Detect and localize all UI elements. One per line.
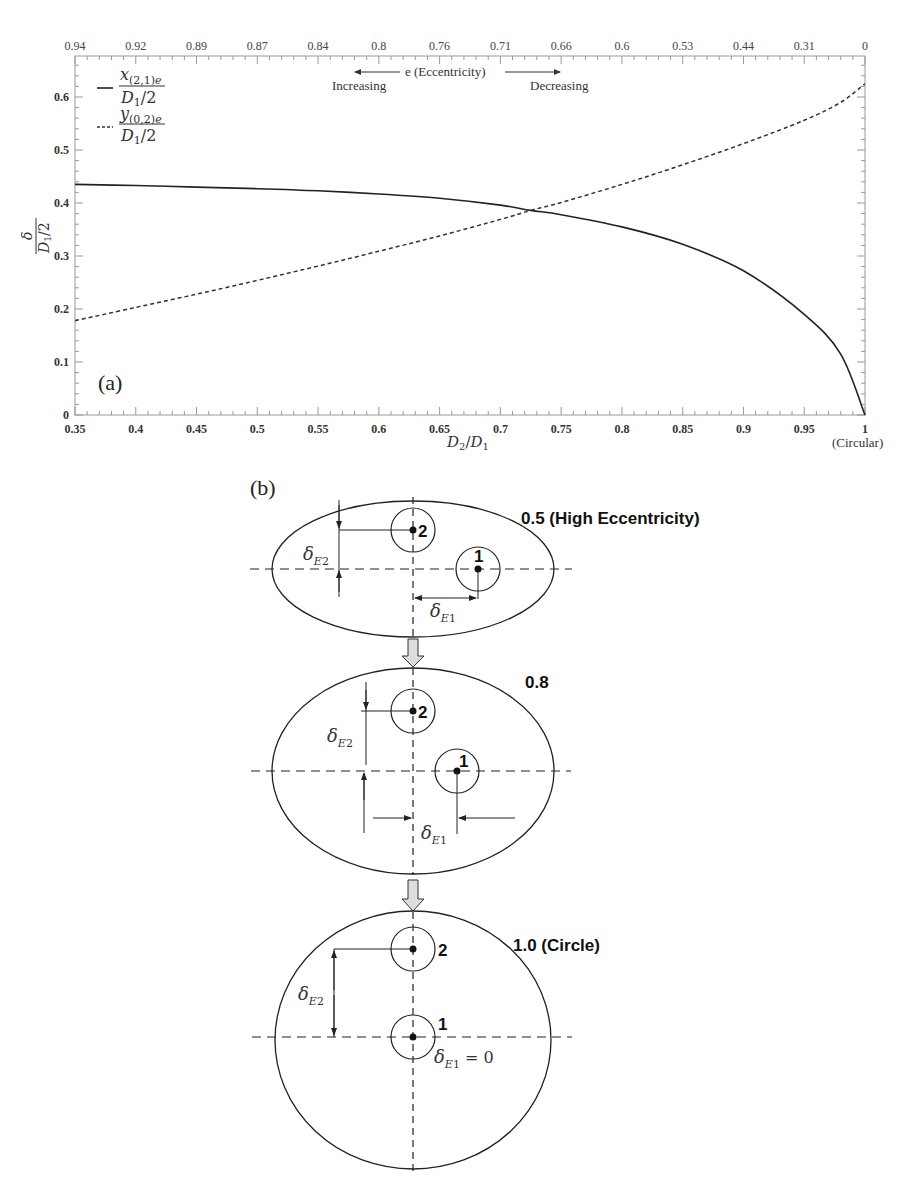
- top-tick-label: 0.8: [371, 39, 386, 53]
- hole-2-label: 2: [438, 941, 447, 960]
- hole-1-label: 1: [459, 752, 468, 771]
- top-tick-label: 0.92: [125, 39, 146, 53]
- transition-arrow-down-icon: [402, 639, 424, 667]
- stage-label: 0.8: [525, 673, 549, 692]
- hole-2-label: 2: [418, 703, 427, 722]
- top-tick-label: 0.87: [247, 39, 268, 53]
- x-tick-label: 0.4: [128, 422, 143, 436]
- legend: x(2,1)e D1/2 y(0,2)e D1/2: [97, 65, 165, 147]
- x-tick-label: 0.7: [493, 422, 508, 436]
- top-axis-labels: 0.940.920.890.870.840.80.760.710.660.60.…: [65, 39, 869, 53]
- x-tick-label: 0.55: [308, 422, 329, 436]
- panel-b-label: (b): [250, 475, 276, 500]
- y-axis-ticks: [75, 65, 865, 415]
- stage-label: 1.0 (Circle): [513, 936, 600, 955]
- y-tick-label: 0.5: [54, 143, 69, 157]
- x-tick-label: 1: [862, 422, 868, 436]
- x-tick-label: 0.75: [551, 422, 572, 436]
- x-tick-label: 0.35: [65, 422, 86, 436]
- hole-2-label: 2: [418, 522, 427, 541]
- diagram-panel-b: (b) 2 1 δE2 δE1 0.5 (High Eccentricity): [250, 475, 700, 1175]
- y-tick-label: 0.1: [54, 355, 69, 369]
- panel-a-label: (a): [98, 370, 122, 395]
- top-tick-label: 0: [862, 39, 868, 53]
- top-tick-label: 0.89: [186, 39, 207, 53]
- y-tick-label: 0.6: [54, 90, 69, 104]
- delta-e1-label: δE1 = 0: [434, 1046, 494, 1071]
- top-tick-label: 0.76: [429, 39, 450, 53]
- series-y02e-dashed-line: [75, 84, 865, 321]
- eccentricity-annotation: e (Eccentricity) Increasing Decreasing: [332, 64, 589, 93]
- x-tick-label: 0.95: [794, 422, 815, 436]
- transition-arrow-down-icon: [402, 880, 424, 911]
- top-tick-label: 0.6: [614, 39, 629, 53]
- y-tick-label: 0: [63, 408, 69, 422]
- top-tick-label: 0.71: [490, 39, 511, 53]
- x-axis-circular-note: (Circular): [832, 435, 883, 450]
- x-tick-label: 0.5: [250, 422, 265, 436]
- increasing-label: Increasing: [332, 78, 387, 93]
- legend-solid-numerator: x(2,1)e: [120, 65, 162, 87]
- delta-e2-label: δE2: [303, 543, 329, 568]
- y-tick-label: 0.2: [54, 302, 69, 316]
- y-tick-label: 0.3: [54, 249, 69, 263]
- hole-1-label: 1: [474, 547, 483, 566]
- top-tick-label: 0.66: [551, 39, 572, 53]
- top-tick-label: 0.53: [672, 39, 693, 53]
- legend-dashed-denominator: D1/2: [120, 126, 156, 147]
- delta-e2-label: δE2: [298, 983, 324, 1008]
- top-axis-ticks: [75, 56, 865, 64]
- x-tick-label: 0.6: [371, 422, 386, 436]
- top-tick-label: 0.31: [794, 39, 815, 53]
- plot-frame: [75, 56, 865, 415]
- stage-1-0-circle: 2 1 δE2 δE1 = 0 1.0 (Circle): [252, 911, 600, 1175]
- stage-0-8-ellipse: 2 1 δE2 δE1 0.8: [251, 668, 571, 875]
- x-tick-label: 0.8: [614, 422, 629, 436]
- hole-1-center: [410, 1034, 417, 1041]
- figure-canvas: 0.940.920.890.870.840.80.760.710.660.60.…: [0, 0, 906, 1188]
- x-tick-label: 0.45: [186, 422, 207, 436]
- top-tick-label: 0.44: [733, 39, 754, 53]
- y-tick-label: 0.4: [54, 196, 69, 210]
- y-axis-title: δ D1/2: [19, 218, 53, 254]
- series-x21e-solid-line: [75, 184, 865, 415]
- x-tick-label: 0.85: [672, 422, 693, 436]
- x-tick-label: 0.9: [736, 422, 751, 436]
- y-axis-labels: 00.10.20.30.40.50.6: [54, 90, 69, 422]
- top-tick-label: 0.84: [308, 39, 329, 53]
- svg-text:δ: δ: [19, 232, 35, 240]
- chart-panel-a: 0.940.920.890.870.840.80.760.710.660.60.…: [19, 39, 883, 452]
- decreasing-label: Decreasing: [530, 78, 589, 93]
- x-axis-title: D2/D1: [446, 433, 489, 452]
- stage-0-5-ellipse: 2 1 δE2 δE1 0.5 (High Eccentricity): [250, 497, 700, 637]
- svg-text:D1/2: D1/2: [36, 222, 53, 254]
- delta-e2-label: δE2: [327, 725, 353, 750]
- top-tick-label: 0.94: [65, 39, 86, 53]
- stage-label: 0.5 (High Eccentricity): [521, 509, 700, 528]
- delta-e1-label: δE1: [421, 822, 447, 847]
- hole-1-label: 1: [438, 1015, 447, 1034]
- eccentricity-label: e (Eccentricity): [405, 64, 485, 79]
- x-axis-ticks: [75, 407, 865, 415]
- delta-e1-label: δE1: [430, 600, 456, 625]
